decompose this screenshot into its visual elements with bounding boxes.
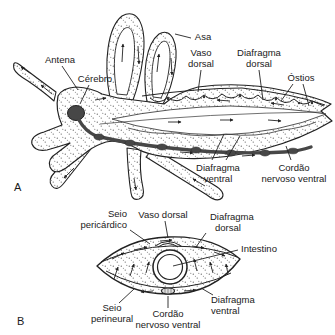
anatomy-diagram: Antena Cérebro Asa Vaso dorsal Diafragma… [0, 0, 335, 335]
brain-mass [68, 106, 85, 121]
panel-b-cross-section: Seio pericárdico Vaso dorsal Diafragma d… [17, 208, 277, 330]
label-diafragma-ventral-a-1: Diafragma [196, 162, 241, 173]
label-diafragma-dorsal-b-1: Diafragma [210, 211, 255, 222]
panel-a-lateral-view: Antena Cérebro Asa Vaso dorsal Diafragma… [14, 14, 332, 200]
label-diafragma-ventral-b-2: ventral [211, 305, 240, 316]
label-cordao-a-1: Cordão [278, 162, 309, 173]
label-vaso-dorsal-a-2: dorsal [188, 58, 214, 69]
label-cordao-b-2: nervoso ventral [136, 319, 201, 330]
label-cordao-a-2: nervoso ventral [262, 173, 327, 184]
label-seio-pericardico-1: Seio [108, 208, 127, 219]
panel-letter-b: B [17, 315, 24, 327]
label-asa: Asa [195, 31, 212, 42]
label-cordao-b-1: Cordão [152, 308, 183, 319]
label-diafragma-dorsal-a-2: dorsal [246, 58, 272, 69]
label-vaso-dorsal-b: Vaso dorsal [138, 209, 187, 220]
label-intestino: Intestino [241, 243, 277, 254]
label-diafragma-ventral-a-2: ventral [204, 173, 233, 184]
panel-letter-a: A [14, 181, 22, 193]
label-antena: Antena [45, 54, 76, 65]
label-seio-perineural-2: perineural [91, 313, 133, 324]
label-seio-pericardico-2: pericárdico [81, 219, 127, 230]
label-diafragma-dorsal-a-1: Diafragma [237, 47, 282, 58]
label-diafragma-ventral-b-1: Diafragma [211, 294, 256, 305]
label-cerebro: Cérebro [78, 73, 112, 84]
label-vaso-dorsal-a-1: Vaso [191, 47, 212, 58]
figure-canvas: Antena Cérebro Asa Vaso dorsal Diafragma… [0, 0, 335, 335]
leg-middle [127, 148, 144, 199]
intestine-inner [158, 255, 183, 280]
antenna-shape [14, 63, 56, 101]
label-diafragma-dorsal-b-2: dorsal [215, 222, 241, 233]
label-ostios: Óstios [288, 72, 315, 83]
label-seio-perineural-1: Seio [102, 302, 121, 313]
